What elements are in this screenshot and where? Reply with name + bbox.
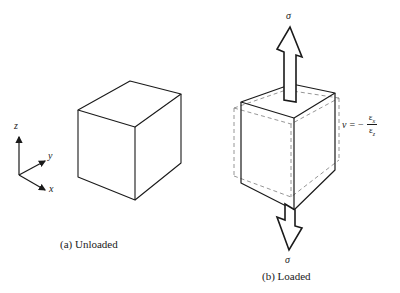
z-axis-label: z <box>14 120 18 131</box>
formula-fraction: εx εz <box>367 112 377 137</box>
cube-top-face <box>78 81 181 127</box>
formula-equals: = <box>349 119 355 130</box>
bottom-load-arrow <box>277 204 302 250</box>
caption-loaded: (b) Loaded <box>262 270 311 282</box>
top-load-arrow <box>277 27 302 102</box>
formula-numerator: εx <box>367 112 377 125</box>
formula-nu: ν <box>342 119 346 130</box>
cube-front-left-face <box>78 110 135 200</box>
x-axis-label: x <box>49 183 53 194</box>
loaded-left-face <box>241 102 294 210</box>
formula-denominator: εz <box>367 125 377 137</box>
coordinate-axes <box>19 137 45 190</box>
caption-unloaded: (a) Unloaded <box>60 238 118 250</box>
sigma-bottom-label: σ <box>285 254 290 265</box>
y-axis-label: y <box>48 150 52 161</box>
poisson-ratio-formula: ν = − εx εz <box>342 112 377 137</box>
subscript-z: z <box>373 131 375 137</box>
unloaded-cube <box>78 81 181 200</box>
sigma-top-label: σ <box>286 10 291 21</box>
loaded-cube <box>241 84 335 210</box>
formula-minus: − <box>358 119 364 130</box>
loaded-right-face <box>294 93 335 210</box>
subscript-x: x <box>373 118 376 124</box>
x-axis-arrow <box>19 175 45 190</box>
y-axis-arrow <box>19 161 45 175</box>
